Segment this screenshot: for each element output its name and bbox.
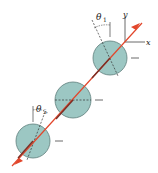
propagation-line [12,23,142,166]
theta-1-symbol: θ [96,12,102,22]
diagram-canvas: y x θ 1 θ 5 [0,0,158,173]
angle-theta-1: θ 1 [94,12,110,37]
y-axis-label: y [122,10,128,19]
theta-5-symbol: θ [36,104,42,114]
sphere-top [92,20,139,76]
angle-theta-5: θ 5 [33,104,48,122]
theta-5-subscript: 5 [43,108,47,115]
x-axis-label: x [146,38,151,47]
theta-1-subscript: 1 [103,16,107,23]
theta-1-arc [94,25,110,28]
